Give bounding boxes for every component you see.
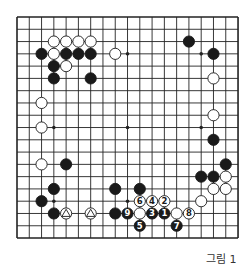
black-stone-circle <box>85 48 96 59</box>
star-point <box>52 126 56 130</box>
star-point <box>126 52 130 56</box>
black-stone <box>220 159 231 170</box>
white-stone <box>36 122 47 133</box>
black-stone <box>208 48 219 59</box>
black-stone: 9 <box>122 208 133 219</box>
black-stone-circle <box>208 134 219 145</box>
white-stone <box>220 183 231 194</box>
white-stone <box>134 208 145 219</box>
white-stone-circle <box>36 159 47 170</box>
star-point <box>126 199 130 203</box>
white-stone <box>61 36 72 47</box>
black-stone-circle <box>48 73 59 84</box>
white-stone <box>220 171 231 182</box>
black-stone: 3 <box>146 208 157 219</box>
black-stone <box>48 61 59 72</box>
move-number-label: 2 <box>161 196 167 206</box>
black-stone-circle <box>110 183 121 194</box>
black-stone <box>134 183 145 194</box>
black-stone <box>36 48 47 59</box>
white-stone <box>48 36 59 47</box>
white-stone <box>36 97 47 108</box>
star-point <box>52 199 56 203</box>
black-stone <box>110 183 121 194</box>
white-stone <box>85 36 96 47</box>
white-stone <box>61 208 72 219</box>
black-stone <box>85 73 96 84</box>
black-stone-circle <box>208 171 219 182</box>
black-stone <box>183 36 194 47</box>
black-stone-circle <box>134 183 145 194</box>
white-stone-circle <box>73 36 84 47</box>
black-stone-circle <box>48 208 59 219</box>
black-stone-circle <box>48 61 59 72</box>
white-stone: 4 <box>146 196 157 207</box>
white-stone-circle <box>208 183 219 194</box>
star-point <box>199 126 203 130</box>
white-stone: 2 <box>159 196 170 207</box>
white-stone-circle <box>208 110 219 121</box>
black-stone <box>208 134 219 145</box>
black-stone <box>196 171 207 182</box>
white-stone <box>48 48 59 59</box>
black-stone <box>208 171 219 182</box>
move-number-label: 4 <box>149 196 155 206</box>
star-point <box>199 52 203 56</box>
white-stone-circle <box>134 208 145 219</box>
white-stone <box>196 196 207 207</box>
white-stone: 8 <box>183 208 194 219</box>
white-stone <box>208 183 219 194</box>
white-stone-circle <box>208 73 219 84</box>
white-stone-circle <box>48 36 59 47</box>
white-stone-circle <box>220 171 231 182</box>
move-number-label: 8 <box>186 208 192 218</box>
black-stone-circle <box>61 159 72 170</box>
white-stone-circle <box>85 36 96 47</box>
black-stone-circle <box>73 48 84 59</box>
move-number-label: 6 <box>137 196 143 206</box>
black-stone-circle <box>61 48 72 59</box>
move-number-label: 5 <box>137 221 143 231</box>
white-stone: 6 <box>134 196 145 207</box>
black-stone: 1 <box>159 208 170 219</box>
white-stone-circle <box>61 61 72 72</box>
figure-caption: 그림 1 <box>206 250 237 266</box>
black-stone <box>73 48 84 59</box>
go-board: 931864257 <box>0 0 250 250</box>
black-stone <box>48 208 59 219</box>
black-stone <box>85 48 96 59</box>
white-stone-circle <box>196 196 207 207</box>
move-number-label: 7 <box>174 221 180 231</box>
black-stone-circle <box>36 196 47 207</box>
black-stone: 5 <box>134 220 145 231</box>
white-stone-circle <box>171 208 182 219</box>
black-stone-circle <box>196 171 207 182</box>
white-stone <box>36 159 47 170</box>
white-stone <box>208 110 219 121</box>
move-number-label: 9 <box>125 208 131 218</box>
black-stone-circle <box>183 36 194 47</box>
black-stone-circle <box>36 48 47 59</box>
white-stone <box>110 48 121 59</box>
black-stone-circle <box>220 159 231 170</box>
move-number-label: 1 <box>161 208 167 218</box>
black-stone <box>61 48 72 59</box>
white-stone-circle <box>36 97 47 108</box>
white-stone <box>208 73 219 84</box>
white-stone <box>61 61 72 72</box>
move-number-label: 3 <box>149 208 155 218</box>
star-point <box>126 126 130 130</box>
black-stone-circle <box>208 48 219 59</box>
white-stone <box>171 208 182 219</box>
white-stone <box>85 208 96 219</box>
black-stone <box>61 159 72 170</box>
black-stone <box>48 73 59 84</box>
black-stone: 7 <box>171 220 182 231</box>
black-stone <box>48 183 59 194</box>
white-stone-circle <box>220 183 231 194</box>
white-stone-circle <box>36 122 47 133</box>
white-stone <box>73 36 84 47</box>
white-stone-circle <box>61 36 72 47</box>
black-stone-circle <box>48 183 59 194</box>
black-stone-circle <box>110 208 121 219</box>
